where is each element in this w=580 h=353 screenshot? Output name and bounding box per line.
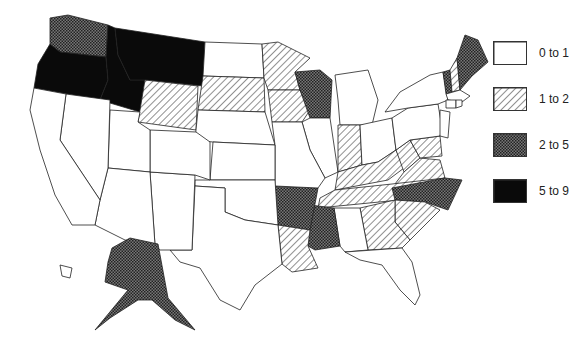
legend-label: 1 to 2 bbox=[539, 92, 569, 106]
legend-swatch-0-to-1 bbox=[493, 41, 527, 65]
state-colorado bbox=[150, 130, 210, 180]
legend-item: 0 to 1 bbox=[493, 30, 580, 76]
legend-item: 5 to 9 bbox=[493, 168, 580, 214]
state-indiana bbox=[338, 125, 362, 172]
state-new-mexico bbox=[150, 172, 195, 250]
state-connecticut bbox=[446, 100, 456, 108]
legend-swatch-1-to-2 bbox=[493, 87, 527, 111]
legend-label: 2 to 5 bbox=[539, 138, 569, 152]
state-florida bbox=[345, 248, 420, 305]
states-layer bbox=[30, 15, 488, 330]
legend-item: 1 to 2 bbox=[493, 76, 580, 122]
state-kansas bbox=[210, 142, 275, 180]
legend-swatch-2-to-5 bbox=[493, 133, 527, 157]
us-choropleth-map bbox=[0, 0, 490, 353]
legend-swatch-5-to-9 bbox=[493, 179, 527, 203]
legend-label: 0 to 1 bbox=[539, 46, 569, 60]
state-wyoming bbox=[138, 80, 198, 130]
state-montana bbox=[115, 28, 205, 86]
state-north-dakota bbox=[203, 42, 264, 78]
legend-label: 5 to 9 bbox=[539, 184, 569, 198]
legend-item: 2 to 5 bbox=[493, 122, 580, 168]
legend: 0 to 1 1 to 2 2 to 5 5 to 9 bbox=[493, 30, 580, 214]
state-maine bbox=[457, 35, 488, 90]
state-michigan bbox=[335, 70, 378, 125]
state-rhode-island bbox=[456, 100, 462, 108]
state-south-dakota bbox=[198, 76, 265, 112]
state-arkansas bbox=[275, 186, 318, 230]
state-new-jersey bbox=[440, 110, 450, 138]
state-hawaii bbox=[60, 265, 72, 278]
